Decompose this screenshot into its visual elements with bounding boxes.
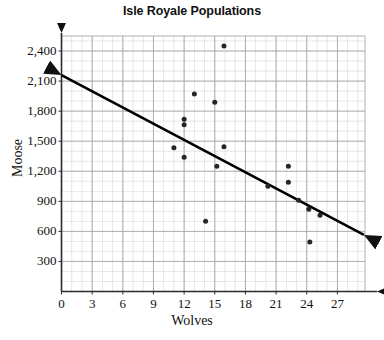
plot-canvas — [0, 0, 384, 340]
scatter-chart: Isle Royale Populations 3006009001,2001,… — [0, 0, 384, 340]
data-point — [265, 184, 270, 189]
y-tick-label: 1,500 — [27, 133, 56, 149]
data-point — [221, 144, 226, 149]
y-tick-label: 1,800 — [27, 103, 56, 119]
data-point — [192, 92, 197, 97]
y-tick-label: 900 — [37, 193, 57, 209]
data-point — [296, 198, 301, 203]
plot-background — [62, 36, 366, 292]
x-tick-label: 18 — [230, 296, 260, 312]
y-tick-label: 1,200 — [27, 163, 56, 179]
data-point — [182, 117, 187, 122]
data-point — [214, 164, 219, 169]
x-tick-label: 9 — [138, 296, 168, 312]
data-point — [203, 219, 208, 224]
data-point — [212, 100, 217, 105]
x-tick-label: 3 — [77, 296, 107, 312]
data-point — [182, 155, 187, 160]
x-tick-label: 6 — [108, 296, 138, 312]
x-tick-label: 24 — [292, 296, 322, 312]
data-point — [286, 164, 291, 169]
x-tick-label: 12 — [169, 296, 199, 312]
y-tick-label: 2,400 — [27, 43, 56, 59]
x-tick-label: 27 — [322, 296, 352, 312]
x-tick-label: 0 — [47, 296, 77, 312]
y-axis-title: Moose — [10, 118, 26, 198]
data-point — [171, 145, 176, 150]
data-point — [182, 122, 187, 127]
x-tick-label: 15 — [200, 296, 230, 312]
y-tick-label: 300 — [37, 253, 57, 269]
x-tick-label: 21 — [261, 296, 291, 312]
data-point — [318, 213, 323, 218]
data-point — [307, 239, 312, 244]
data-point — [306, 207, 311, 212]
y-tick-label: 600 — [37, 223, 57, 239]
data-point — [286, 180, 291, 185]
x-axis-title: Wolves — [0, 313, 384, 329]
data-point — [221, 44, 226, 49]
y-tick-label: 2,100 — [27, 73, 56, 89]
